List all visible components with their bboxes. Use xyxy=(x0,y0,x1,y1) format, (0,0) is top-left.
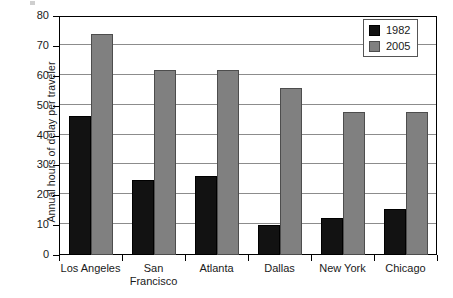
x-axis-label: Atlanta xyxy=(185,262,248,288)
x-axis-label-line: Chicago xyxy=(374,262,437,275)
bar xyxy=(154,70,176,255)
y-axis-tick xyxy=(53,225,59,226)
y-axis-tick xyxy=(53,136,59,137)
y-axis-tick-label: 0 xyxy=(5,248,49,260)
bar-group xyxy=(248,16,311,255)
x-axis-label: Los Angeles xyxy=(59,262,122,288)
x-axis-label-line: Los Angeles xyxy=(59,262,122,275)
y-axis-tick xyxy=(53,76,59,77)
y-axis-tick xyxy=(53,46,59,47)
y-axis-tick xyxy=(53,165,59,166)
x-axis-tick xyxy=(185,255,186,261)
bar xyxy=(406,112,428,255)
x-axis-tick xyxy=(374,255,375,261)
y-axis-tick xyxy=(53,16,59,17)
legend-item: 2005 xyxy=(369,40,410,52)
bar xyxy=(195,176,217,255)
bar-chart: Annual hours of delay per traveler 01020… xyxy=(0,0,453,298)
x-axis-label-line: San xyxy=(122,262,185,275)
x-axis-tick xyxy=(437,255,438,261)
x-axis-label: Dallas xyxy=(248,262,311,288)
x-axis-labels: Los AngelesSanFranciscoAtlantaDallasNew … xyxy=(59,262,437,288)
x-axis-label-line: New York xyxy=(311,262,374,275)
legend-item: 1982 xyxy=(369,24,410,36)
y-axis-tick-label: 80 xyxy=(5,9,49,21)
bar xyxy=(217,70,239,255)
y-axis-tick-label: 70 xyxy=(5,39,49,51)
legend-label: 2005 xyxy=(386,40,410,52)
y-axis-tick-label: 60 xyxy=(5,69,49,81)
y-axis-tick xyxy=(53,106,59,107)
bar xyxy=(69,116,91,255)
x-axis-tick xyxy=(311,255,312,261)
x-axis-label-line: Atlanta xyxy=(185,262,248,275)
bar xyxy=(384,209,406,255)
bar xyxy=(321,218,343,255)
legend-swatch xyxy=(369,25,380,36)
y-axis-tick-label: 50 xyxy=(5,99,49,111)
bar xyxy=(258,225,280,255)
bar-group xyxy=(59,16,122,255)
x-axis-tick xyxy=(59,255,60,261)
x-axis-tick xyxy=(122,255,123,261)
x-axis-label-line: Dallas xyxy=(248,262,311,275)
bar xyxy=(280,88,302,255)
legend-swatch xyxy=(369,41,380,52)
y-axis-tick-label: 40 xyxy=(5,129,49,141)
bar xyxy=(91,34,113,255)
bar-group xyxy=(122,16,185,255)
x-axis-label: SanFrancisco xyxy=(122,262,185,288)
bar-group xyxy=(185,16,248,255)
x-axis-label: Chicago xyxy=(374,262,437,288)
y-axis-tick-label: 20 xyxy=(5,188,49,200)
y-axis-tick-label: 30 xyxy=(5,158,49,170)
bar xyxy=(132,180,154,255)
y-axis-tick xyxy=(53,195,59,196)
x-axis-label: New York xyxy=(311,262,374,288)
x-axis-label-line: Francisco xyxy=(122,275,185,288)
legend-label: 1982 xyxy=(386,24,410,36)
x-axis-tick xyxy=(248,255,249,261)
bar xyxy=(343,112,365,255)
y-axis-tick-label: 10 xyxy=(5,218,49,230)
legend: 19822005 xyxy=(363,19,418,57)
scan-artifact xyxy=(30,1,35,5)
